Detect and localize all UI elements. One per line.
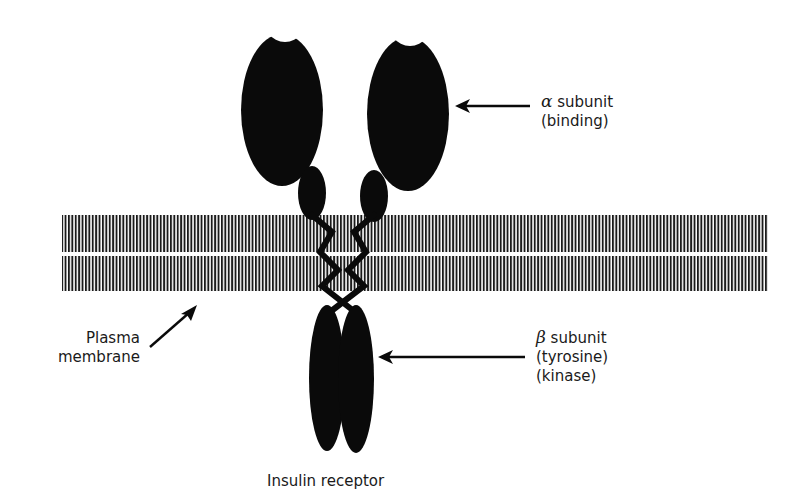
beta-symbol: β <box>536 327 546 347</box>
alpha-stalk-left <box>298 166 326 220</box>
plasma-membrane-label: Plasma membrane <box>42 329 140 367</box>
alpha-subunit-left <box>241 34 323 186</box>
insulin-receptor-diagram <box>0 0 800 495</box>
figure-caption: Insulin receptor <box>267 472 384 491</box>
alpha-subunit-label: α subunit (binding) <box>541 92 613 131</box>
alpha-symbol: α <box>541 91 552 111</box>
membrane-outer-leaflet <box>62 215 768 252</box>
alpha-arrow <box>455 99 530 113</box>
beta-subunit-right <box>338 305 374 453</box>
beta-arrow <box>378 350 525 364</box>
membrane-arrow <box>150 305 197 347</box>
beta-subunit-label: β subunit (tyrosine) (kinase) <box>536 328 608 386</box>
membrane-inner-leaflet <box>62 256 768 291</box>
beta-subunits <box>309 305 374 453</box>
alpha-subunit-right <box>367 37 449 191</box>
plasma-membrane <box>62 215 768 291</box>
alpha-subunits <box>241 34 449 222</box>
